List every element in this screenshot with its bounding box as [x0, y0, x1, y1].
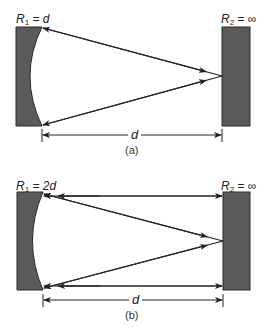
mirror-left-concave-b: [17, 192, 43, 290]
label-r1-a: R1 = d: [16, 13, 49, 27]
label-r2-a: R2 = ∞: [221, 13, 256, 27]
distance-label-a: d: [128, 128, 141, 141]
beam-arrow-top-a: [43, 28, 206, 72]
panel-caption-b: (b): [125, 309, 138, 321]
mirror-right-flat-a: [222, 27, 250, 126]
label-r2-b: R2 = ∞: [221, 180, 256, 194]
panel-b: [17, 192, 250, 307]
beam-arrow-bottom-a: [43, 80, 206, 125]
panel-a: [16, 27, 250, 142]
mirror-right-flat-b: [223, 192, 250, 290]
distance-label-b: d: [129, 293, 142, 306]
beam-diagonal-bottom-b-arrow: [44, 245, 207, 288]
mirror-left-concave-a: [16, 27, 42, 126]
panel-caption-a: (a): [125, 144, 138, 156]
resonator-diagram: [0, 0, 269, 336]
label-r1-b: R1 = 2d: [16, 180, 56, 194]
beam-diagonal-top-b-arrow: [44, 194, 207, 237]
